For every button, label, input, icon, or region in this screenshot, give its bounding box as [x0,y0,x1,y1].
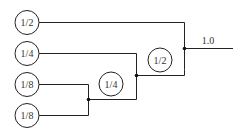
intermediate-node: 1/2 [148,48,172,72]
intermediate-node-label: 1/2 [154,55,167,66]
input-node-label: 1/8 [21,110,34,121]
input-node: 1/2 [15,11,39,35]
junction-dot [183,47,187,51]
input-node-label: 1/8 [21,79,34,90]
output-label: 1.0 [202,35,215,46]
intermediate-node: 1/4 [99,72,123,96]
junction-dot [135,74,139,78]
intermediate-node-label: 1/4 [105,79,118,90]
input-node: 1/4 [15,42,39,66]
wire-eighth-inputs [39,85,89,116]
input-node-label: 1/2 [21,17,34,28]
merge-tree-diagram: 1/2 1/4 1/8 1/8 1/4 1/2 1.0 [0,0,244,135]
input-node: 1/8 [15,104,39,128]
input-node-label: 1/4 [21,48,34,59]
wire-quarter-input [39,54,137,100]
junction-dot [87,98,91,102]
input-node: 1/8 [15,73,39,97]
